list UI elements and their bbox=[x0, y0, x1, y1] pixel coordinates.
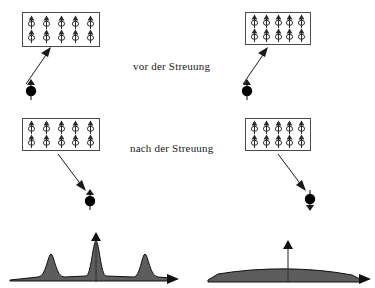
lattice-row bbox=[249, 29, 307, 43]
lattice-row bbox=[26, 121, 96, 135]
lattice-row bbox=[249, 135, 307, 149]
spin-up-icon bbox=[249, 134, 260, 149]
spin-up-icon bbox=[85, 15, 96, 30]
spin-up-icon bbox=[41, 134, 52, 149]
spin-up-icon bbox=[261, 134, 272, 149]
lattice-row bbox=[249, 15, 307, 29]
incoming-neutron-right bbox=[236, 78, 258, 102]
spin-up-icon bbox=[70, 15, 81, 30]
spin-up-icon bbox=[56, 134, 67, 149]
lattice-right-before bbox=[245, 12, 311, 45]
spin-up-icon bbox=[85, 29, 96, 44]
spin-up-icon bbox=[26, 29, 37, 44]
spin-up-icon bbox=[41, 29, 52, 44]
lattice-row bbox=[26, 15, 96, 30]
caption-before: vor der Streuung bbox=[133, 60, 210, 72]
spin-up-icon bbox=[296, 134, 307, 149]
spin-up-icon bbox=[273, 134, 284, 149]
lattice-left-before bbox=[22, 12, 100, 47]
figure-canvas: vor der Streuung bbox=[0, 0, 375, 288]
spin-up-icon bbox=[41, 15, 52, 30]
scattered-neutron-left bbox=[79, 188, 101, 212]
spin-up-icon bbox=[70, 134, 81, 149]
spin-up-icon bbox=[26, 15, 37, 30]
lattice-row bbox=[26, 30, 96, 45]
spin-up-icon bbox=[26, 134, 37, 149]
lattice-row bbox=[249, 121, 307, 135]
diffraction-plot-bragg bbox=[8, 232, 180, 284]
spin-up-icon bbox=[284, 28, 295, 43]
spin-up-icon bbox=[249, 28, 260, 43]
lattice-row bbox=[26, 135, 96, 149]
scattered-neutron-right bbox=[299, 188, 321, 212]
lattice-right-after bbox=[245, 118, 311, 151]
spin-up-icon bbox=[56, 29, 67, 44]
spin-up-icon bbox=[261, 28, 272, 43]
spin-up-icon bbox=[85, 134, 96, 149]
diffraction-plot-diffuse bbox=[200, 232, 372, 284]
spin-up-icon bbox=[296, 28, 307, 43]
spin-up-icon bbox=[56, 15, 67, 30]
spin-up-icon bbox=[273, 28, 284, 43]
caption-after: nach der Streuung bbox=[130, 142, 213, 154]
spin-up-icon bbox=[70, 29, 81, 44]
spin-up-icon bbox=[284, 134, 295, 149]
incoming-neutron-left bbox=[20, 78, 42, 102]
lattice-left-after bbox=[22, 118, 100, 151]
